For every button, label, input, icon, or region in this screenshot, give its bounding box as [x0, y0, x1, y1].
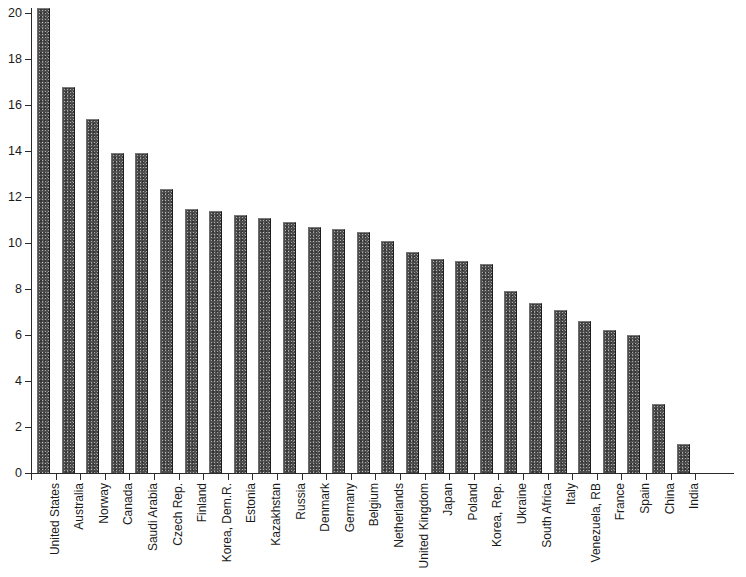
y-axis-tick-label: 18 [0, 53, 22, 66]
x-axis-tick [523, 474, 524, 480]
y-axis-tick [25, 13, 31, 14]
x-axis-label: Saudi Arabia [147, 483, 160, 551]
x-axis-label: United Kingdom [418, 483, 431, 568]
bar [529, 303, 542, 473]
x-axis-label: France [614, 483, 627, 520]
y-axis-tick [25, 243, 31, 244]
x-axis-tick [277, 474, 278, 480]
bar [111, 153, 124, 473]
x-axis-label: Venezuela, RB [590, 483, 603, 562]
y-axis-tick [25, 59, 31, 60]
x-axis-label: India [688, 483, 701, 509]
bar [86, 119, 99, 473]
x-axis-tick [597, 474, 598, 480]
bar [480, 264, 493, 473]
x-axis-tick [646, 474, 647, 480]
bar [406, 252, 419, 473]
bar [504, 291, 517, 473]
y-axis-line [31, 8, 32, 474]
bar [185, 209, 198, 474]
x-axis-label: Poland [467, 483, 480, 520]
x-axis-tick [695, 474, 696, 480]
x-axis-tick [203, 474, 204, 480]
bar [332, 229, 345, 473]
bar [234, 215, 247, 473]
y-axis-tick [25, 197, 31, 198]
x-axis-tick [548, 474, 549, 480]
y-axis-tick-label: 2 [0, 421, 22, 434]
x-axis-tick [129, 474, 130, 480]
y-axis-tick [25, 105, 31, 106]
x-axis-label: Finland [196, 483, 209, 522]
x-axis-tick [474, 474, 475, 480]
bar [62, 87, 75, 473]
bar [37, 8, 50, 473]
x-axis-label: Australia [73, 483, 86, 530]
x-axis-label: Russia [295, 483, 308, 520]
x-axis-label: Kazakhstan [270, 483, 283, 546]
x-axis-label: Belgium [368, 483, 381, 526]
y-axis-tick-label: 14 [0, 145, 22, 158]
bar [431, 259, 444, 473]
bar [627, 335, 640, 473]
bar [603, 330, 616, 473]
y-axis-tick-label: 12 [0, 191, 22, 204]
x-axis-label: Netherlands [393, 483, 406, 548]
bar [381, 241, 394, 473]
x-axis-tick [31, 474, 32, 480]
x-axis-tick [228, 474, 229, 480]
y-axis-tick-label: 8 [0, 283, 22, 296]
y-axis-tick-label: 20 [0, 7, 22, 20]
x-axis-tick [498, 474, 499, 480]
bar [258, 218, 271, 473]
x-axis-tick [621, 474, 622, 480]
y-axis-tick [25, 335, 31, 336]
x-axis-tick [179, 474, 180, 480]
y-axis-tick-label: 16 [0, 99, 22, 112]
bar [677, 444, 690, 473]
x-axis-tick [154, 474, 155, 480]
x-axis-tick [56, 474, 57, 480]
x-axis-label: Ukraine [516, 483, 529, 524]
x-axis-label: Germany [344, 483, 357, 532]
x-axis-label: Spain [639, 483, 652, 514]
x-axis-tick [80, 474, 81, 480]
bar [308, 227, 321, 473]
x-axis-tick [671, 474, 672, 480]
bar [209, 211, 222, 473]
x-axis-tick [326, 474, 327, 480]
x-axis-label: Canada [122, 483, 135, 525]
y-axis-tick [25, 289, 31, 290]
y-axis-tick-label: 0 [0, 467, 22, 480]
x-axis-label: Japan [442, 483, 455, 516]
x-axis-label: Czech Rep. [172, 483, 185, 546]
bar [455, 261, 468, 473]
y-axis-tick [25, 151, 31, 152]
x-axis-label: Norway [98, 483, 111, 524]
x-axis-line [31, 473, 734, 474]
x-axis-label: Korea, Dem.R. [221, 483, 234, 562]
bar [283, 222, 296, 473]
bar [652, 404, 665, 473]
bar [357, 232, 370, 474]
x-axis-label: Italy [565, 483, 578, 505]
bar [578, 321, 591, 473]
x-axis-tick [105, 474, 106, 480]
y-axis-tick [25, 381, 31, 382]
bar [135, 153, 148, 473]
y-axis-tick [25, 427, 31, 428]
y-axis-tick-label: 10 [0, 237, 22, 250]
bar [160, 189, 173, 473]
x-axis-label: Denmark [319, 483, 332, 532]
x-axis-tick [425, 474, 426, 480]
bar [554, 310, 567, 473]
y-axis-tick-label: 6 [0, 329, 22, 342]
x-axis-label: Estonia [245, 483, 258, 523]
y-axis-tick-label: 4 [0, 375, 22, 388]
x-axis-tick [375, 474, 376, 480]
x-axis-tick [572, 474, 573, 480]
x-axis-label: Korea, Rep. [491, 483, 504, 547]
x-axis-label: United States [49, 483, 62, 555]
x-axis-tick [252, 474, 253, 480]
x-axis-tick [351, 474, 352, 480]
